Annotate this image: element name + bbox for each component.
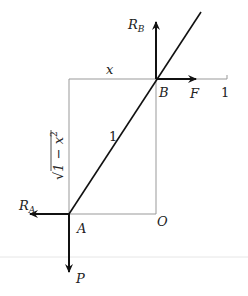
force-ra-label: RA	[18, 198, 36, 215]
point-b-label: B	[158, 85, 169, 100]
x-label: x	[106, 62, 114, 77]
point-a-label: A	[76, 221, 86, 236]
point-o-label: O	[157, 214, 168, 229]
force-f-label: F	[189, 86, 200, 101]
rod-length-label: 1	[109, 129, 117, 144]
force-rb-label: RB	[127, 17, 145, 34]
sqrt-label: √1 − x2	[49, 130, 66, 180]
svg-text:√1 − x2: √1 − x2	[49, 131, 66, 180]
force-p-label: P	[75, 271, 85, 286]
ladder-diagram: RB x B F 1 1 √1 − x2 RA A O P	[0, 0, 248, 296]
axis-one-label: 1	[221, 85, 229, 100]
ladder-rod	[69, 12, 201, 214]
